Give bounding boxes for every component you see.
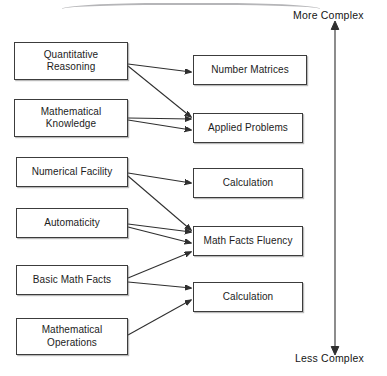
edge-automaticity-to-math-facts-fluency bbox=[128, 224, 191, 232]
node-numerical-facility: Numerical Facility bbox=[16, 157, 128, 187]
axis-label-more-complex: More Complex bbox=[293, 9, 364, 21]
axis-arrowhead-up-icon bbox=[331, 21, 339, 30]
node-label: Automaticity bbox=[41, 217, 103, 230]
node-label: Quantitative Reasoning bbox=[41, 49, 102, 74]
node-label: Calculation bbox=[220, 177, 277, 190]
node-number-matrices: Number Matrices bbox=[193, 55, 307, 85]
node-label: Mathematical Knowledge bbox=[38, 106, 105, 131]
node-label: Numerical Facility bbox=[29, 166, 116, 179]
edge-basic-math-facts-to-math-facts-fluency bbox=[128, 252, 191, 278]
node-applied-problems: Applied Problems bbox=[193, 113, 303, 143]
node-automaticity: Automaticity bbox=[16, 208, 128, 238]
node-math-facts-fluency: Math Facts Fluency bbox=[193, 226, 303, 256]
node-mathematical-knowledge: Mathematical Knowledge bbox=[14, 99, 128, 137]
node-label: Math Facts Fluency bbox=[200, 235, 295, 248]
node-basic-math-facts: Basic Math Facts bbox=[16, 265, 128, 295]
node-quantitative-reasoning: Quantitative Reasoning bbox=[14, 42, 128, 80]
node-calculation-upper: Calculation bbox=[193, 168, 303, 198]
node-label: Number Matrices bbox=[208, 64, 292, 77]
node-label: Calculation bbox=[220, 291, 277, 304]
page-edge-artifact bbox=[62, 3, 320, 9]
diagram-canvas: Quantitative ReasoningMathematical Knowl… bbox=[0, 0, 387, 376]
node-label: Basic Math Facts bbox=[30, 274, 114, 287]
edge-automaticity-to-math-facts-fluency bbox=[128, 227, 191, 243]
edge-numerical-facility-to-calculation-upper bbox=[128, 173, 191, 183]
node-mathematical-operations: Mathematical Operations bbox=[16, 318, 128, 355]
edge-quantitative-reasoning-to-number-matrices bbox=[128, 64, 191, 72]
node-calculation-lower: Calculation bbox=[193, 282, 303, 312]
node-label: Applied Problems bbox=[205, 122, 291, 135]
edge-mathematical-operations-to-calculation-lower bbox=[128, 300, 191, 335]
edge-quantitative-reasoning-to-applied-problems bbox=[128, 66, 191, 117]
node-label: Mathematical Operations bbox=[39, 324, 106, 349]
edge-mathematical-knowledge-to-applied-problems bbox=[128, 120, 191, 130]
edge-numerical-facility-to-math-facts-fluency bbox=[128, 176, 191, 230]
complexity-axis-line bbox=[331, 21, 339, 355]
axis-label-less-complex: Less Complex bbox=[295, 352, 364, 364]
edge-basic-math-facts-to-calculation-lower bbox=[128, 282, 191, 288]
edge-group bbox=[128, 64, 191, 335]
edge-mathematical-knowledge-to-applied-problems bbox=[128, 118, 191, 119]
